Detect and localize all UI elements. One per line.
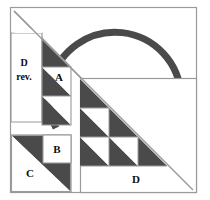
region-label-c: C bbox=[26, 167, 34, 179]
figure-root: E D rev. A bbox=[0, 0, 210, 200]
region-d-rev: D rev. bbox=[11, 27, 42, 122]
region-label-d-rev-line2: rev. bbox=[16, 71, 32, 82]
dissection-figure: E D rev. A bbox=[0, 0, 210, 200]
d-rev-notch bbox=[11, 27, 42, 33]
region-label-d-rev-line1: D bbox=[20, 57, 27, 68]
region-b: B bbox=[43, 135, 71, 163]
region-label-d: D bbox=[132, 173, 140, 185]
region-label-b: B bbox=[53, 143, 61, 155]
region-label-a: A bbox=[55, 71, 63, 83]
